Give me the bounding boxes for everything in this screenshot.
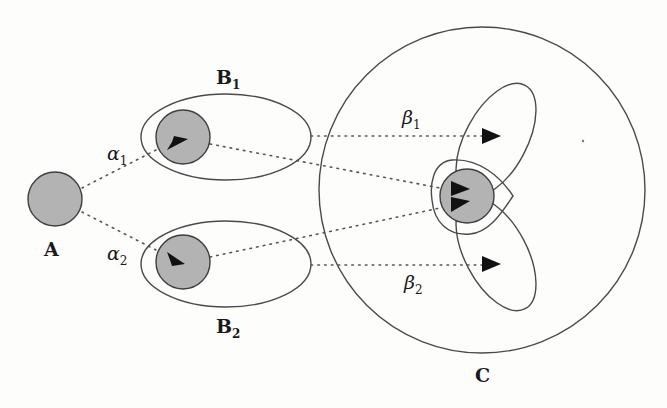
speck-mark [582,140,584,142]
arrowhead-icon [482,256,501,272]
label-a: A [43,238,59,260]
label-c: C [475,364,490,386]
b2-to-c-edge [210,208,440,257]
label-alpha2: α2 [107,242,127,268]
label-b1: B1 [216,66,240,92]
label-beta2: β2 [403,271,423,297]
commutation-diagram: A B1 B2 C α1 α2 β1 β2 [0,0,667,408]
label-beta1: β1 [401,106,421,132]
label-b2: B2 [216,315,240,341]
node-b2 [156,235,210,289]
node-c [440,169,494,223]
b1-to-c-edge [210,144,440,188]
node-a [28,172,82,226]
arrowhead-icon [482,128,501,144]
label-alpha1: α1 [107,142,127,168]
node-b1 [156,110,210,164]
